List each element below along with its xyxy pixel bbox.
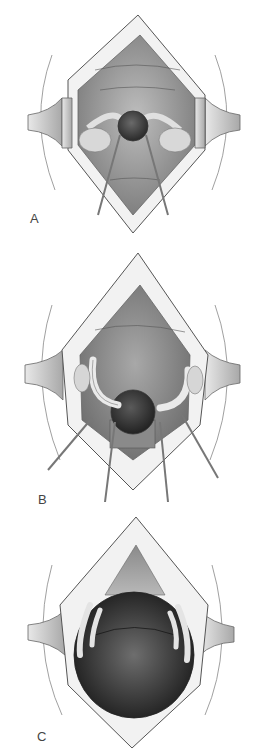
panel-c: C: [0, 505, 257, 756]
panel-b: B: [0, 250, 257, 505]
panel-a: A: [0, 0, 257, 250]
surgical-illustration-b: [0, 250, 257, 505]
panel-label-a: A: [30, 211, 39, 226]
surgical-illustration-c: [0, 505, 257, 756]
panel-label-c: C: [37, 729, 46, 744]
